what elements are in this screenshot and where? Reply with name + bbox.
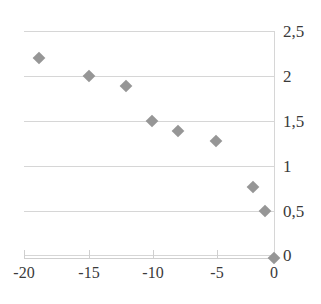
x-axis-label: -5 xyxy=(210,265,223,281)
data-point xyxy=(120,80,133,93)
data-point xyxy=(146,115,159,128)
data-point xyxy=(33,52,46,65)
gridline-y-2-5 xyxy=(24,31,274,32)
scatter-chart: 00,511,522,5 -20-15-10-50 xyxy=(0,0,321,304)
gridline-y-2 xyxy=(24,76,274,77)
y-axis-label: 2 xyxy=(283,68,292,85)
gridline-y-0-5 xyxy=(24,211,274,212)
data-point xyxy=(268,252,281,265)
data-point xyxy=(210,135,223,148)
y-axis-label: 0,5 xyxy=(283,203,304,220)
plot-area: 00,511,522,5 -20-15-10-50 xyxy=(0,0,321,304)
x-tick--10 xyxy=(153,250,154,258)
data-point xyxy=(83,70,96,83)
x-axis-line xyxy=(24,258,274,259)
x-tick--15 xyxy=(89,250,90,258)
x-axis-label: -20 xyxy=(13,265,34,281)
y-axis-label: 1,5 xyxy=(283,113,304,130)
data-point xyxy=(172,125,185,138)
data-point xyxy=(247,181,260,194)
x-axis-label: -10 xyxy=(142,265,163,281)
x-tick--20 xyxy=(24,250,25,258)
x-axis-label: 0 xyxy=(270,265,278,281)
y-axis-label: 1 xyxy=(283,158,292,175)
gridline-y-1 xyxy=(24,166,274,167)
x-tick--5 xyxy=(217,250,218,258)
y-axis-label: 2,5 xyxy=(283,23,304,40)
data-point xyxy=(259,205,272,218)
y-axis-label: 0 xyxy=(283,247,292,264)
x-axis-label: -15 xyxy=(78,265,99,281)
gridline-y-0 xyxy=(24,255,274,256)
y-axis-line xyxy=(274,31,275,258)
